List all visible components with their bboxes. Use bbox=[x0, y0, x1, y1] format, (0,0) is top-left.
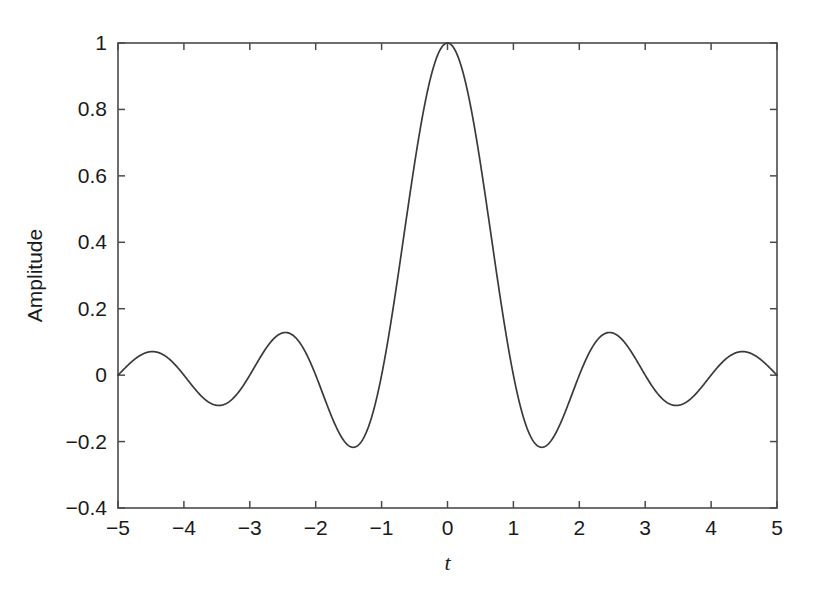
y-tick-label: 0.6 bbox=[78, 164, 107, 187]
x-tick-label: 2 bbox=[573, 516, 585, 539]
figure-canvas: −5−4−3−2−1012345 −0.4−0.200.20.40.60.81 … bbox=[0, 0, 814, 591]
x-tick-label: −4 bbox=[172, 516, 196, 539]
sinc-line-chart: −5−4−3−2−1012345 −0.4−0.200.20.40.60.81 … bbox=[0, 0, 814, 591]
x-tick-label: −5 bbox=[106, 516, 130, 539]
y-tick-label: 1 bbox=[95, 31, 107, 54]
x-tick-label: 1 bbox=[508, 516, 520, 539]
x-tick-label: 5 bbox=[771, 516, 783, 539]
x-tick-label: −2 bbox=[304, 516, 328, 539]
x-axis-title: t bbox=[444, 550, 451, 575]
y-tick-label: 0.8 bbox=[78, 97, 107, 120]
y-tick-label: 0 bbox=[95, 363, 107, 386]
x-tick-label: −1 bbox=[370, 516, 394, 539]
x-tick-label: −3 bbox=[238, 516, 262, 539]
y-tick-label: 0.4 bbox=[78, 230, 108, 253]
y-tick-label: 0.2 bbox=[78, 297, 107, 320]
y-tick-label: −0.2 bbox=[66, 430, 107, 453]
y-axis-title: Amplitude bbox=[23, 229, 46, 322]
chart-background bbox=[0, 0, 814, 591]
x-tick-label: 3 bbox=[639, 516, 651, 539]
x-tick-label: 0 bbox=[442, 516, 454, 539]
y-tick-label: −0.4 bbox=[66, 496, 108, 519]
x-tick-label: 4 bbox=[705, 516, 717, 539]
